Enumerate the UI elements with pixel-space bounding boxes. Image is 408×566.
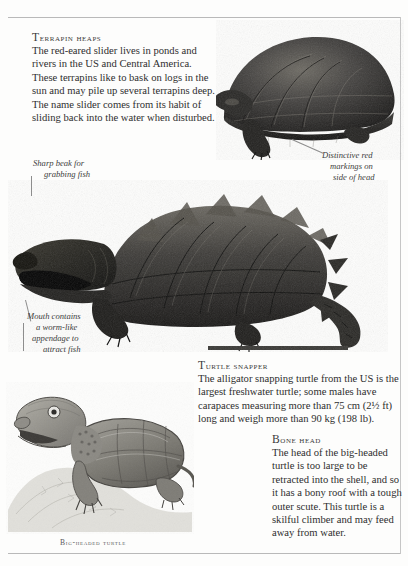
leader-line-beak [31,176,32,196]
body-terrapin-heaps: The red-eared slider lives in ponds and … [32,44,218,124]
leader-line-mouth-lower [23,323,24,351]
text-block-bone-head: Bone head The head of the big-headed tur… [272,434,404,540]
heading-turtle-snapper: Turtle snapper [198,360,403,372]
annotation-sharp-beak-line1: Sharp beak for [33,158,84,168]
red-eared-slider-photo [216,20,404,160]
annotation-mouth-worm-line1: Mouth contains [27,311,81,321]
heading-terrapin-heaps: Terrapin heaps [32,32,218,44]
bottom-rule [8,553,400,554]
big-headed-turtle-illustration [6,382,194,534]
body-turtle-snapper: The alligator snapping turtle from the U… [198,372,403,426]
annotation-mouth-worm: Mouth contains a worm-like appendage to … [27,311,113,355]
body-bone-head: The head of the big-headed turtle is too… [272,446,404,540]
annotation-red-markings-line2: markings on [322,161,404,172]
text-block-terrapin-heaps: Terrapin heaps The red-eared slider live… [32,32,218,124]
heading-bone-head: Bone head [272,434,404,446]
annotation-red-markings-line3: side of head [322,172,404,183]
caption-big-headed-turtle: Big-headed turtle [60,538,126,547]
text-block-turtle-snapper: Turtle snapper The alligator snapping tu… [198,360,403,426]
annotation-sharp-beak: Sharp beak for grabbing fish [33,158,129,180]
annotation-sharp-beak-line2: grabbing fish [33,169,129,180]
annotation-red-markings: Distinctive red markings on side of head [322,150,404,183]
book-page: Terrapin heaps The red-eared slider live… [0,0,408,566]
annotation-mouth-worm-line4: attract fish [27,344,113,355]
annotation-red-markings-line1: Distinctive red [322,150,373,160]
annotation-mouth-worm-line2: a worm-like [27,322,113,333]
annotation-mouth-worm-line3: appendage to [27,333,113,344]
top-rule [8,17,400,18]
